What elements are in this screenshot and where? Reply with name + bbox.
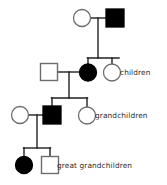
generation-label-grandchildren: grandchildren	[95, 112, 148, 120]
individual-I-1-female-unaffected	[74, 10, 91, 27]
individual-II-1-male-unaffected	[41, 64, 58, 81]
generation-label-great-grandchildren: great grandchildren	[57, 162, 132, 170]
individual-III-2-male-affected	[43, 106, 61, 124]
pedigree-graphic	[0, 0, 167, 185]
individual-II-3-female-unaffected	[104, 64, 121, 81]
individual-IV-1-female-affected	[16, 157, 33, 174]
generation-label-children: children	[120, 69, 150, 77]
individual-III-1-female-unaffected	[12, 107, 29, 124]
individual-III-3-female-unaffected	[79, 107, 96, 124]
individual-I-2-male-affected	[106, 9, 124, 27]
individual-II-2-female-affected	[80, 64, 97, 81]
pedigree-chart: children grandchildren great grandchildr…	[0, 0, 167, 185]
pedigree-lines	[24, 18, 120, 157]
individual-IV-2-male-unaffected	[42, 157, 59, 174]
